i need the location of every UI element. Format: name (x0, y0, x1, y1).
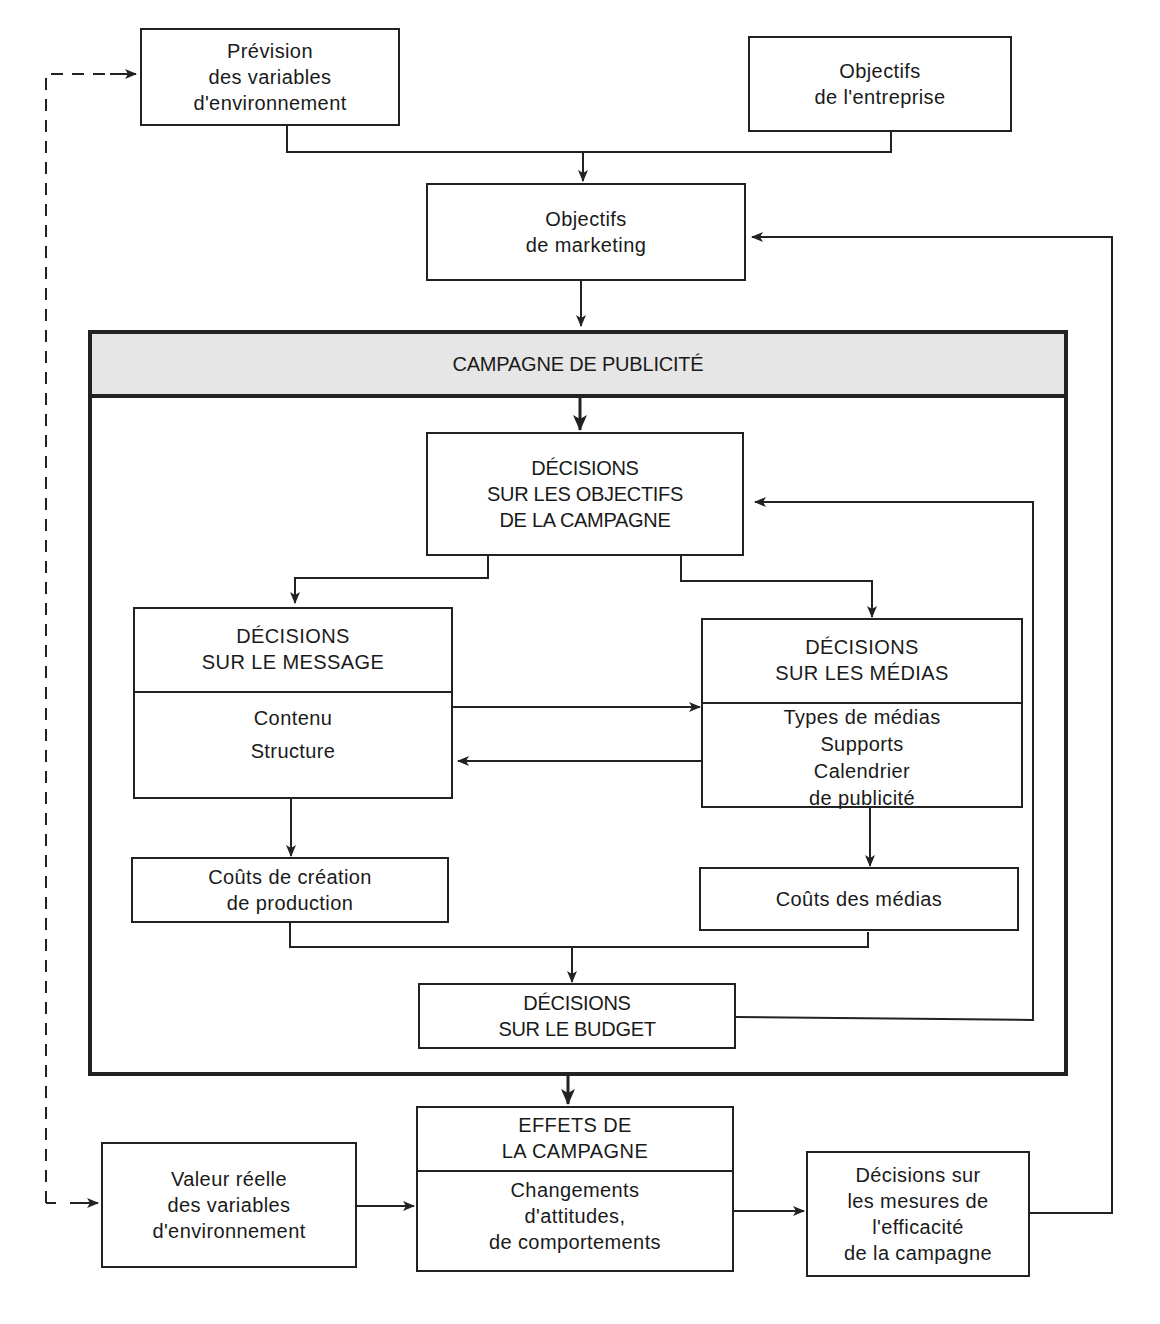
effects-body-line: Changements (511, 1177, 640, 1203)
forecast-env-line: d'environnement (193, 90, 346, 116)
actual-env-box: Valeur réelle des variables d'environnem… (101, 1142, 357, 1268)
media-body-line: Supports (820, 731, 903, 758)
message-body-line: Contenu (254, 702, 332, 735)
effectiveness-measures-box: Décisions sur les mesures de l'efficacit… (806, 1151, 1030, 1277)
media-head-line: SUR LES MÉDIAS (775, 660, 948, 686)
objectives-line: DÉCISIONS (531, 455, 638, 481)
company-goals-line: Objectifs (839, 58, 920, 84)
budget-line: DÉCISIONS (523, 990, 630, 1016)
media-body-line: Types de médias (783, 704, 940, 731)
message-body-line: Structure (251, 735, 336, 768)
creation-costs-box: Coûts de création de production (131, 857, 449, 923)
marketing-goals-line: de marketing (526, 232, 646, 258)
creation-costs-line: de production (227, 890, 353, 916)
effects-head-line: EFFETS DE (518, 1112, 632, 1138)
media-costs-line: Coûts des médias (776, 886, 942, 912)
effects-body-line: d'attitudes, (525, 1203, 626, 1229)
message-head-line: SUR LE MESSAGE (202, 649, 384, 675)
effects-body-line: de comportements (489, 1229, 661, 1255)
company-goals-line: de l'entreprise (815, 84, 946, 110)
measures-line: de la campagne (844, 1240, 992, 1266)
creation-costs-line: Coûts de création (208, 864, 372, 890)
media-body-line: Calendrier (814, 758, 910, 785)
forecast-env-line: des variables (208, 64, 331, 90)
forecast-env-line: Prévision (227, 38, 313, 64)
media-head-line: DÉCISIONS (805, 634, 919, 660)
media-costs-box: Coûts des médias (699, 867, 1019, 931)
measures-line: Décisions sur (855, 1162, 980, 1188)
actual-env-line: d'environnement (152, 1218, 305, 1244)
budget-line: SUR LE BUDGET (498, 1016, 655, 1042)
actual-env-line: Valeur réelle (171, 1166, 287, 1192)
budget-decisions-box: DÉCISIONS SUR LE BUDGET (418, 983, 736, 1049)
campaign-title: CAMPAGNE DE PUBLICITÉ (92, 334, 1064, 398)
objectives-line: SUR LES OBJECTIFS (487, 481, 683, 507)
measures-line: les mesures de (847, 1188, 988, 1214)
marketing-goals-box: Objectifs de marketing (426, 183, 746, 281)
marketing-goals-line: Objectifs (545, 206, 626, 232)
message-head-line: DÉCISIONS (236, 623, 350, 649)
actual-env-line: des variables (167, 1192, 290, 1218)
objectives-line: DE LA CAMPAGNE (499, 507, 670, 533)
measures-line: l'efficacité (872, 1214, 964, 1240)
campaign-objectives-box: DÉCISIONS SUR LES OBJECTIFS DE LA CAMPAG… (426, 432, 744, 556)
media-decisions-box: DÉCISIONS SUR LES MÉDIAS Types de médias… (701, 618, 1023, 808)
message-decisions-box: DÉCISIONS SUR LE MESSAGE Contenu Structu… (133, 607, 453, 799)
media-body-line: de publicité (809, 785, 915, 812)
campaign-effects-box: EFFETS DE LA CAMPAGNE Changements d'atti… (416, 1106, 734, 1272)
forecast-env-box: Prévision des variables d'environnement (140, 28, 400, 126)
company-goals-box: Objectifs de l'entreprise (748, 36, 1012, 132)
effects-head-line: LA CAMPAGNE (502, 1138, 648, 1164)
